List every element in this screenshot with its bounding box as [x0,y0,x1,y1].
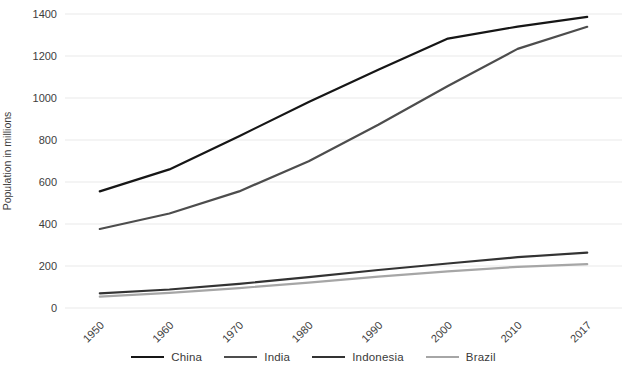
legend-label-china: China [171,351,202,363]
legend-swatch-brazil [426,356,459,359]
legend-swatch-china [131,356,164,359]
x-tick-label: 2000 [429,319,455,343]
y-tick-label: 0 [51,302,57,314]
x-tick-label: 2010 [498,319,524,343]
y-tick-label: 800 [39,134,57,146]
line-brazil [100,264,587,297]
legend-swatch-india [224,356,257,359]
chart-plot-area: 0200400600800100012001400195019601970198… [0,0,627,343]
x-tick-label: 1950 [80,319,106,343]
legend-item-indonesia: Indonesia [312,351,404,363]
line-indonesia [100,253,587,294]
x-tick-label: 1970 [220,319,246,343]
y-tick-label: 1400 [33,8,57,20]
population-line-chart: 0200400600800100012001400195019601970198… [0,0,627,373]
y-axis-title: Population in millions [1,112,13,211]
y-tick-label: 1000 [33,92,57,104]
y-tick-label: 1200 [33,50,57,62]
line-india [100,27,587,229]
legend-swatch-indonesia [312,356,345,359]
x-tick-label: 1980 [289,319,315,343]
x-tick-label: 2017 [568,319,594,343]
y-tick-label: 200 [39,260,57,272]
legend-label-brazil: Brazil [466,351,496,363]
x-tick-label: 1960 [150,319,176,343]
legend-label-india: India [264,351,290,363]
y-tick-label: 400 [39,218,57,230]
legend-item-india: India [224,351,290,363]
legend-item-china: China [131,351,202,363]
y-tick-label: 600 [39,176,57,188]
line-china [100,17,587,192]
x-tick-label: 1990 [359,319,385,343]
legend-item-brazil: Brazil [426,351,496,363]
legend: China India Indonesia Brazil [0,343,627,371]
legend-label-indonesia: Indonesia [352,351,404,363]
